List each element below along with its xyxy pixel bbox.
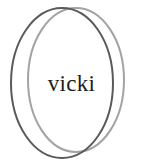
diagram-canvas: vicki xyxy=(0,0,141,165)
overlapping-ellipses-figure xyxy=(0,0,141,165)
background-rect xyxy=(0,0,141,165)
